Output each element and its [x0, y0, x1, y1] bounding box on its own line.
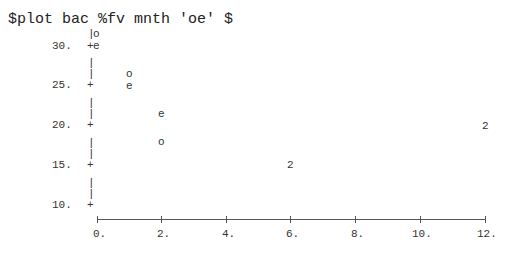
- x-tick-label-10: 10.: [412, 229, 432, 240]
- x-tick-label-2: 2.: [157, 229, 170, 240]
- y-tick-plus: +: [87, 80, 94, 91]
- plot-command: $plot bac %fv mnth 'oe' $: [8, 12, 233, 27]
- x-tick-label-12: 12.: [477, 229, 497, 240]
- point-o: o: [93, 29, 100, 40]
- point-e: e: [93, 41, 100, 52]
- y-axis-bar: |: [88, 109, 95, 120]
- point-o: o: [158, 137, 165, 148]
- point-overlap-2: 2: [287, 160, 294, 171]
- y-tick-label-10: 10.: [52, 200, 72, 211]
- y-axis-bar: |: [88, 189, 95, 200]
- x-axis-line: [97, 219, 486, 220]
- y-tick-label-30: 30.: [52, 41, 72, 52]
- y-axis-bar: |: [88, 149, 95, 160]
- y-axis-bar: |: [88, 69, 95, 80]
- y-tick-label-15: 15.: [52, 160, 72, 171]
- point-e: e: [158, 109, 165, 120]
- x-tick-label-4: 4.: [222, 229, 235, 240]
- x-tick: [161, 216, 162, 223]
- x-tick-label-0: 0.: [93, 229, 106, 240]
- point-overlap-2: 2: [482, 121, 489, 132]
- x-tick: [226, 216, 227, 223]
- x-tick-label-8: 8.: [351, 229, 364, 240]
- y-tick-plus: +: [87, 200, 94, 211]
- x-tick: [420, 216, 421, 223]
- x-tick: [485, 216, 486, 223]
- y-tick-plus: +: [87, 120, 94, 131]
- y-tick-label-25: 25.: [52, 80, 72, 91]
- y-tick-plus: +: [87, 160, 94, 171]
- y-tick-label-20: 20.: [52, 120, 72, 131]
- point-o: o: [126, 69, 133, 80]
- point-e: e: [126, 81, 133, 92]
- x-tick: [97, 216, 98, 223]
- x-tick: [290, 216, 291, 223]
- x-tick-label-6: 6.: [286, 229, 299, 240]
- x-tick: [355, 216, 356, 223]
